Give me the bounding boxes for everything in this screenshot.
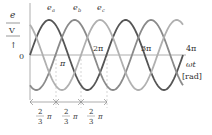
spacing-label-2: 2 3 π [62,108,78,126]
svg-text:b: b [78,7,81,13]
y-axis-unit: V [8,26,15,35]
tick-2pi: 2π [93,44,103,53]
curve-label-b: e b [73,3,81,13]
three-phase-waveform-diagram: e V ↑ 0 e a e b e c π 2π 3π 4π ωt [rad] … [0,0,212,135]
svg-text:c: c [102,7,105,13]
spacing-label-1: 2 3 π [36,108,52,126]
spacing-arrows [30,99,107,105]
up-arrow-icon: ↑ [10,41,17,50]
tick-4pi: 4π [186,44,196,53]
svg-text:2: 2 [64,108,68,116]
svg-text:2: 2 [89,108,93,116]
curve-label-a: e a [47,3,55,13]
curve-label-c: e c [97,3,105,13]
x-axis-unit: [rad] [182,72,202,81]
tick-pi: π [59,59,66,68]
svg-text:3: 3 [64,118,68,126]
x-axis-label: ωt [186,60,197,69]
svg-text:3: 3 [89,118,93,126]
svg-text:π: π [72,113,78,121]
svg-text:π: π [46,113,52,121]
tick-3pi: 3π [141,44,151,53]
origin-label: 0 [19,52,24,61]
svg-text:2: 2 [38,108,42,116]
svg-text:π: π [97,113,103,121]
svg-text:3: 3 [38,118,42,126]
y-axis-label: e [10,10,15,20]
svg-text:a: a [52,7,55,13]
spacing-label-3: 2 3 π [87,108,103,126]
